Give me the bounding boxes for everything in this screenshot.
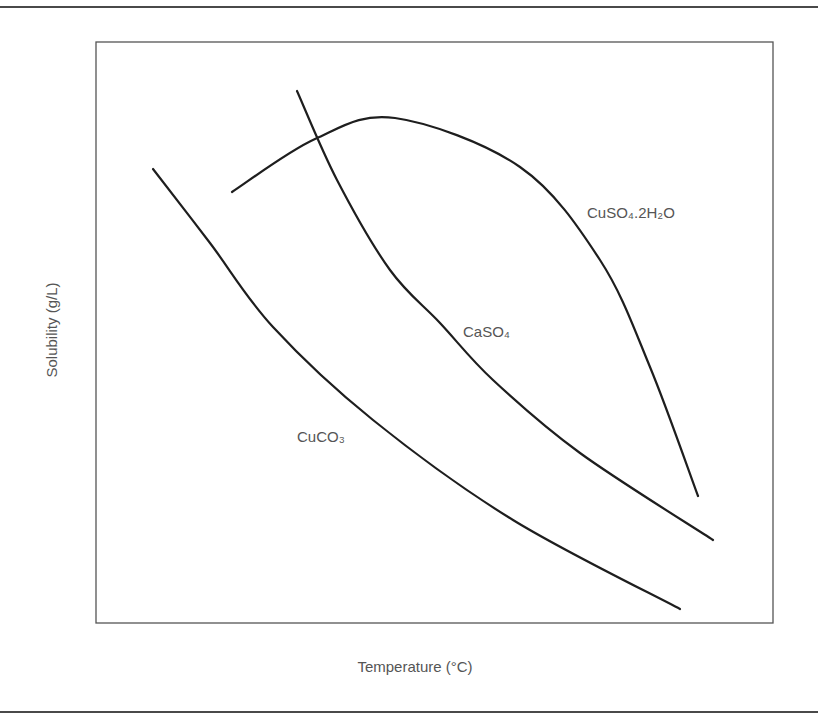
label-cuso4-2h2o: CuSO₄.2H₂O (587, 204, 675, 221)
x-axis-label: Temperature (°C) (357, 658, 472, 675)
label-cuco3: CuCO₃ (297, 428, 345, 445)
solubility-chart: CuSO₄.2H₂O CaSO₄ CuCO₃ Temperature (°C) … (0, 0, 818, 716)
curve-cuco3 (153, 169, 680, 609)
y-axis-label: Solubility (g/L) (43, 282, 60, 377)
label-caso4: CaSO₄ (463, 323, 510, 340)
plot-frame (96, 42, 773, 623)
